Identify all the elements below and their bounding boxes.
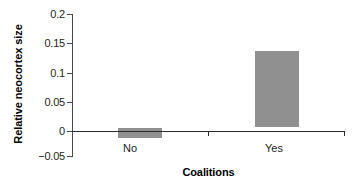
x-tick-middle [208, 131, 209, 136]
bar-chart-figure: 0.2 0.15 0.1 0.05 0 −0.05 Relative neoco… [0, 0, 355, 189]
y-tick-label-0.15: 0.15 [25, 38, 65, 49]
y-tick-label-0.2: 0.2 [25, 9, 65, 20]
x-tick-label-no: No [100, 143, 160, 154]
y-tick-0.1 [67, 73, 72, 74]
x-axis-title: Coalitions [72, 166, 345, 178]
x-tick-label-yes: Yes [244, 143, 304, 154]
bar-yes [255, 51, 299, 127]
y-axis-title: Relative neocortex size [12, 4, 24, 164]
y-tick-neg0.05 [67, 156, 72, 157]
y-tick-0.2 [67, 14, 72, 15]
y-tick-label-neg0.05: −0.05 [25, 151, 65, 162]
y-tick-label-0: 0 [25, 126, 65, 137]
y-axis-line [72, 14, 73, 157]
y-tick-label-0.1: 0.1 [25, 68, 65, 79]
bar-no [118, 128, 162, 138]
y-tick-0.05 [67, 102, 72, 103]
y-tick-label-0.05: 0.05 [25, 97, 65, 108]
x-tick-end [344, 131, 345, 136]
y-tick-0.15 [67, 43, 72, 44]
